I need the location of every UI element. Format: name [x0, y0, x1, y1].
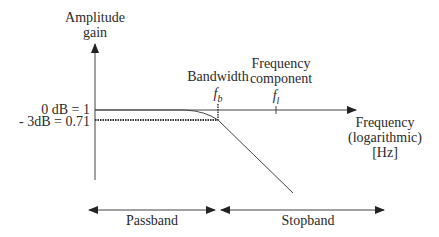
response-curve — [95, 110, 293, 193]
bandwidth-symbol: fb — [198, 86, 238, 106]
passband-label: Passband — [112, 213, 192, 228]
frequency-component-label: Frequency component — [236, 56, 326, 86]
x-axis-label: Frequency (logarithmic) [Hz] — [335, 115, 435, 160]
stopband-label: Stopband — [268, 213, 348, 228]
x-axis-label-line1: Frequency — [335, 115, 435, 130]
y-axis-label-line1: Amplitude — [57, 10, 133, 25]
frequency-component-symbol: fl — [256, 88, 296, 108]
frequency-component-label-line1: Frequency — [236, 56, 326, 71]
bandwidth-symbol-subscript: b — [217, 93, 222, 104]
frequency-component-label-line2: component — [236, 71, 326, 86]
y-axis-label-line2: gain — [57, 25, 133, 40]
frequency-component-symbol-subscript: l — [277, 95, 280, 106]
minus-3db-label: - 3dB = 0.71 — [0, 114, 90, 129]
x-axis-label-line2: (logarithmic) — [335, 130, 435, 145]
y-axis-label: Amplitude gain — [57, 10, 133, 40]
x-axis-label-line3: [Hz] — [335, 145, 435, 160]
